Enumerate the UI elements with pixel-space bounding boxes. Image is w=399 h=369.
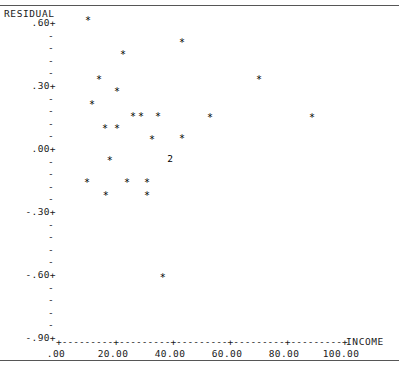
- data-point-marker: *: [95, 75, 103, 85]
- data-point-marker: *: [119, 50, 127, 60]
- data-point-marker: *: [255, 75, 263, 85]
- data-point-marker: *: [159, 273, 167, 283]
- data-point-marker: *: [178, 38, 186, 48]
- data-point-marker: *: [148, 135, 156, 145]
- data-point-marker: *: [308, 113, 316, 123]
- data-point-overlap-count: 2: [166, 154, 174, 164]
- data-point-marker: *: [83, 178, 91, 188]
- data-point-marker: *: [88, 100, 96, 110]
- data-point-marker: *: [143, 178, 151, 188]
- plot-area: ****************2*******: [0, 0, 399, 369]
- data-point-marker: *: [178, 134, 186, 144]
- scatterplot-page: RESIDUAL INCOME .60+----.30+----.00+----…: [0, 0, 399, 369]
- data-point-marker: *: [123, 178, 131, 188]
- data-point-marker: *: [101, 124, 109, 134]
- data-point-marker: *: [84, 16, 92, 26]
- data-point-marker: *: [137, 112, 145, 122]
- data-point-marker: *: [154, 112, 162, 122]
- data-point-marker: *: [129, 112, 137, 122]
- data-point-marker: *: [106, 156, 114, 166]
- data-point-marker: *: [113, 87, 121, 97]
- data-point-marker: *: [113, 124, 121, 134]
- data-point-marker: *: [102, 191, 110, 201]
- data-point-marker: *: [206, 113, 214, 123]
- data-point-marker: *: [143, 191, 151, 201]
